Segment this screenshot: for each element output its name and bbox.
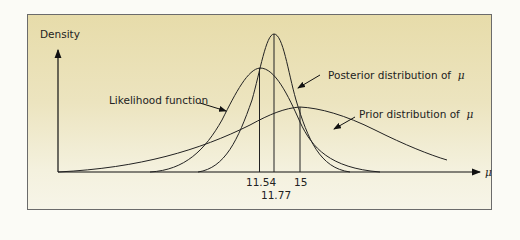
- tick-11-77: 11.77: [261, 189, 291, 201]
- tick-11-54: 11.54: [246, 176, 276, 188]
- y-axis-label: Density: [40, 28, 80, 40]
- prior-text: Prior distribution of: [359, 108, 460, 120]
- posterior-mu: μ: [458, 69, 465, 81]
- likelihood-annotation: Likelihood function: [109, 94, 208, 106]
- prior-arrow: [334, 117, 355, 129]
- tick-15: 15: [294, 176, 307, 188]
- posterior-arrow: [298, 75, 320, 88]
- likelihood-curve: [150, 68, 380, 172]
- posterior-text: Posterior distribution of: [328, 69, 451, 81]
- x-axis-label: μ: [485, 166, 492, 178]
- prior-mu: μ: [466, 108, 473, 120]
- prior-annotation: Prior distribution of μ: [359, 108, 473, 120]
- posterior-annotation: Posterior distribution of μ: [328, 69, 465, 81]
